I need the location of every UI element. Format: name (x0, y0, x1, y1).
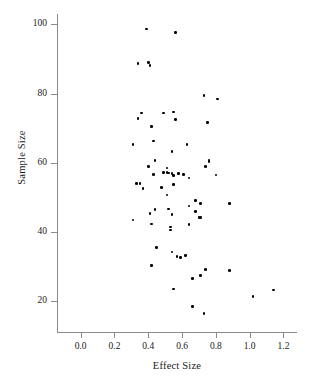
scatter-point (252, 295, 255, 298)
scatter-point (137, 117, 140, 120)
y-tick-mark (51, 163, 57, 164)
x-tick-mark (182, 332, 183, 338)
y-axis-title: Sample Size (16, 98, 27, 218)
x-tick-mark (283, 332, 284, 338)
x-tick-label: 1.2 (263, 341, 303, 351)
scatter-point (167, 172, 170, 175)
scatter-point (199, 274, 202, 277)
x-tick-mark (216, 332, 217, 338)
scatter-point (171, 213, 174, 216)
scatter-point (132, 143, 135, 146)
scatter-point (272, 289, 275, 292)
scatter-plot-figure: 20406080100 0.00.20.40.60.81.01.2 Sample… (0, 0, 313, 385)
scatter-point (177, 172, 180, 175)
scatter-point (166, 194, 169, 197)
scatter-point (191, 305, 194, 308)
x-tick-mark (81, 332, 82, 338)
scatter-point (154, 208, 157, 211)
scatter-point (174, 118, 177, 121)
scatter-point (172, 288, 175, 291)
scatter-point (150, 264, 153, 267)
scatter-point (228, 202, 231, 205)
scatter-point (204, 268, 207, 271)
scatter-point (228, 269, 231, 272)
y-tick-label: 80 (7, 89, 47, 99)
scatter-point (172, 111, 175, 114)
scatter-point (174, 31, 177, 34)
scatter-point (145, 28, 148, 31)
scatter-point (171, 251, 174, 254)
scatter-point (132, 219, 135, 222)
scatter-point (169, 229, 172, 232)
y-tick-label: 40 (7, 227, 47, 237)
scatter-point (215, 174, 218, 177)
x-tick-mark (148, 332, 149, 338)
scatter-point (160, 186, 163, 189)
y-tick-mark (51, 301, 57, 302)
scatter-point (182, 173, 185, 176)
scatter-point (208, 159, 211, 162)
scatter-point (135, 182, 138, 185)
scatter-point (150, 125, 153, 128)
y-tick-label: 60 (7, 158, 47, 168)
scatter-point (167, 208, 170, 211)
scatter-point (172, 174, 175, 177)
scatter-point (194, 210, 197, 213)
scatter-point (203, 94, 206, 97)
scatter-point (204, 165, 207, 168)
scatter-point (140, 112, 143, 115)
scatter-point (184, 254, 187, 257)
scatter-point (188, 177, 191, 180)
x-axis-line (57, 332, 297, 333)
scatter-point (149, 212, 152, 215)
x-tick-mark (250, 332, 251, 338)
scatter-point (149, 64, 152, 67)
scatter-point (152, 173, 155, 176)
x-axis-title: Effect Size (57, 360, 297, 371)
scatter-point (169, 226, 172, 229)
y-tick-mark (51, 232, 57, 233)
scatter-point (216, 98, 219, 101)
scatter-point (142, 187, 145, 190)
scatter-point (152, 140, 155, 143)
scatter-point (191, 277, 194, 280)
scatter-point (186, 143, 189, 146)
scatter-point (139, 182, 142, 185)
y-tick-label: 20 (7, 296, 47, 306)
scatter-point (154, 159, 157, 162)
scatter-point (150, 223, 153, 226)
y-tick-mark (51, 24, 57, 25)
scatter-point (155, 246, 158, 249)
y-tick-mark (51, 94, 57, 95)
scatter-point (162, 112, 165, 115)
scatter-point (176, 255, 179, 258)
scatter-point (172, 183, 175, 186)
scatter-point (194, 199, 197, 202)
x-tick-mark (114, 332, 115, 338)
y-tick-label: 100 (7, 19, 47, 29)
scatter-point (179, 256, 182, 259)
scatter-point (162, 171, 165, 174)
scatter-point (188, 205, 191, 208)
scatter-point (171, 150, 174, 153)
scatter-point (203, 312, 206, 315)
y-axis-line (57, 14, 58, 332)
scatter-point (188, 223, 191, 226)
scatter-point (147, 165, 150, 168)
scatter-point (199, 202, 202, 205)
scatter-point (137, 62, 140, 65)
scatter-point (199, 216, 202, 219)
scatter-point (206, 121, 209, 124)
scatter-point (166, 167, 169, 170)
